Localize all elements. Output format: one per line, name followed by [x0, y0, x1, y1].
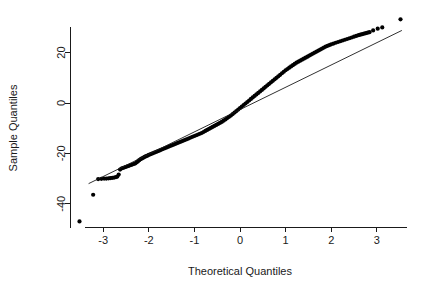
axes-layer: -3-2-10123200-20-40 [55, 27, 407, 246]
y-axis-title: Sample Quantiles [7, 84, 19, 171]
qq-plot-figure: -3-2-10123200-20-40 Theoretical Quantile… [0, 0, 427, 291]
x-axis-tick-label: 1 [283, 234, 289, 246]
reference-line-layer [89, 30, 402, 183]
scatter-points-layer [77, 17, 402, 223]
data-point [376, 27, 380, 31]
x-axis-tick-label: 2 [328, 234, 334, 246]
data-point [91, 193, 95, 197]
x-axis-tick-label: 3 [374, 234, 380, 246]
data-point [371, 28, 375, 32]
y-axis-tick-label: -20 [55, 145, 67, 161]
x-axis-tick-label: -2 [144, 234, 154, 246]
x-axis-tick-label: 0 [237, 234, 243, 246]
data-point [117, 172, 121, 176]
x-axis-title: Theoretical Quantiles [188, 265, 292, 277]
data-point [77, 219, 81, 223]
x-axis-tick-label: -1 [190, 234, 200, 246]
axis-labels-layer: Theoretical QuantilesSample Quantiles [7, 84, 292, 277]
data-point [398, 17, 402, 21]
qq-plot-canvas: -3-2-10123200-20-40 Theoretical Quantile… [0, 0, 427, 291]
data-point [380, 25, 384, 29]
qq-reference-line [89, 30, 402, 183]
y-axis-tick-label: 0 [55, 100, 67, 106]
y-axis-tick-label: -40 [55, 196, 67, 212]
data-point [367, 30, 371, 34]
x-axis-tick-label: -3 [98, 234, 108, 246]
y-axis-tick-label: 20 [55, 46, 67, 58]
